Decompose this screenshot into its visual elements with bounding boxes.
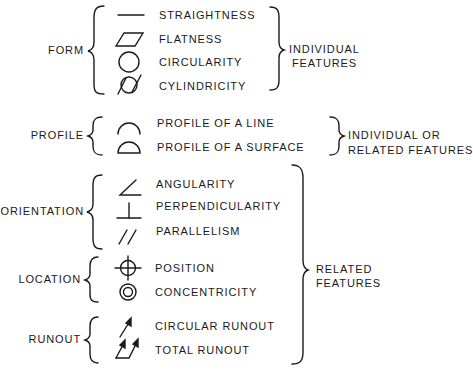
flatness-icon xyxy=(116,33,143,46)
group-indiv-related-line1: INDIVIDUAL OR xyxy=(348,129,441,142)
label-total-runout: TOTAL RUNOUT xyxy=(155,344,250,357)
circularity-icon xyxy=(119,52,139,72)
label-angularity: ANGULARITY xyxy=(156,178,235,191)
parallelism-icon xyxy=(119,230,136,244)
profile-brace xyxy=(88,117,102,155)
profile-surface-icon xyxy=(118,142,140,153)
label-profile-surface: PROFILE OF A SURFACE xyxy=(157,141,305,154)
category-orientation: ORIENTATION xyxy=(0,205,84,218)
label-concentricity: CONCENTRICITY xyxy=(155,286,257,299)
circular-runout-icon xyxy=(120,318,131,337)
label-parallelism: PARALLELISM xyxy=(156,225,240,238)
profile-line-icon xyxy=(118,123,140,134)
orientation-brace xyxy=(87,175,102,249)
group-individual-line1: INDIVIDUAL xyxy=(289,43,360,56)
cylindricity-icon xyxy=(118,75,141,94)
angularity-icon xyxy=(120,180,141,195)
related-features-brace xyxy=(292,165,308,364)
label-profile-line: PROFILE OF A LINE xyxy=(157,117,274,130)
label-flatness: FLATNESS xyxy=(159,33,222,46)
label-circularity: CIRCULARITY xyxy=(159,56,242,69)
category-runout: RUNOUT xyxy=(10,333,81,346)
perpendicularity-icon xyxy=(117,203,141,218)
form-brace xyxy=(88,6,104,94)
individual-features-brace xyxy=(270,7,284,90)
individual-or-related-brace xyxy=(330,117,344,155)
group-individual-line2: FEATURES xyxy=(292,57,357,70)
category-profile: PROFILE xyxy=(20,129,84,142)
label-position: POSITION xyxy=(155,262,215,275)
category-location: LOCATION xyxy=(10,273,81,286)
category-form: FORM xyxy=(20,44,84,57)
total-runout-icon xyxy=(116,339,138,358)
runout-brace xyxy=(85,317,98,363)
location-brace xyxy=(85,257,98,302)
group-indiv-related-line2: RELATED FEATURES xyxy=(348,144,473,157)
group-related-line2: FEATURES xyxy=(316,277,381,290)
label-circular-runout: CIRCULAR RUNOUT xyxy=(155,320,275,333)
label-perpendicularity: PERPENDICULARITY xyxy=(156,200,281,213)
label-cylindricity: CYLINDRICITY xyxy=(159,80,246,93)
concentricity-icon xyxy=(120,284,136,300)
group-related-line1: RELATED xyxy=(316,263,372,276)
position-icon xyxy=(115,256,141,280)
label-straightness: STRAIGHTNESS xyxy=(159,9,255,22)
